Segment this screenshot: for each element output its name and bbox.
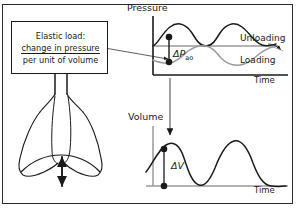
delta-volume-label: ΔV	[171, 161, 184, 171]
delta-pressure-subscript: ao	[185, 54, 193, 62]
volume-vs-time-chart	[146, 126, 288, 189]
unloading-series-label: Unloading	[240, 34, 285, 43]
callout-line-3: per unit of volume	[23, 55, 99, 65]
elastic-load-callout: Elastic load: change in pressure per uni…	[11, 21, 108, 74]
delta-pressure-ao-label: ΔPao	[173, 49, 193, 61]
time-axis-label-bottom: Time	[254, 186, 275, 195]
volume-curve	[146, 141, 286, 187]
loading-leader	[272, 47, 283, 51]
figure-canvas: Elastic load: change in pressure per uni…	[0, 0, 297, 210]
right-lung-outline	[64, 112, 102, 176]
loading-series-label: Loading	[240, 56, 276, 65]
callout-line-2: change in pressure	[21, 43, 99, 55]
callout-line-1: Elastic load:	[36, 31, 86, 41]
delta-pressure-symbol: ΔP	[173, 48, 185, 59]
callout-text-block: Elastic load: change in pressure per uni…	[12, 22, 109, 75]
pressure-vs-time-chart	[153, 16, 288, 75]
volume-axis-label: Volume	[128, 112, 163, 122]
lung-diaphragm-diagram	[19, 74, 102, 186]
time-axis-label-top: Time	[254, 76, 275, 85]
right-lung-fissure	[63, 96, 71, 164]
left-bronchus	[40, 94, 55, 112]
left-lung-fissure	[52, 96, 58, 164]
pressure-axis-label: Pressure	[127, 3, 168, 13]
diaphragm	[21, 155, 100, 172]
